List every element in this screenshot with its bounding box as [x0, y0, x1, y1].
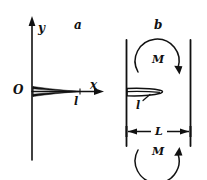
panel-a-label: a — [74, 19, 82, 31]
blade-body-midline — [127, 91, 160, 92]
y-axis-label: y — [38, 22, 45, 34]
origin-label: O — [13, 84, 23, 96]
figure-vector-graphics — [0, 0, 207, 180]
moment-arc-bottom-arrowhead — [174, 147, 182, 156]
x-axis-label: x — [90, 79, 97, 91]
panel-a-body-length-label: l — [74, 96, 78, 107]
panel-b-body-length-label: l — [136, 100, 140, 111]
moment-bottom-label: M — [152, 146, 164, 157]
dimension-arrowhead-left — [128, 129, 137, 135]
panel-b-label: b — [154, 19, 162, 31]
dimension-arrowhead-right — [180, 129, 189, 135]
gap-distance-label: L — [155, 126, 163, 137]
moment-arc-top-arrowhead — [174, 66, 182, 75]
figure-canvas: a b y x O l l L M M — [0, 0, 207, 180]
y-axis-arrowhead — [29, 16, 36, 26]
moment-top-label: M — [152, 54, 164, 65]
